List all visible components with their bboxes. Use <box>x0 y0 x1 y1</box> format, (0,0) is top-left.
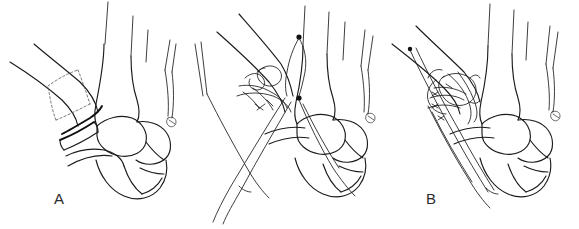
tibia-shaft-a <box>95 44 140 126</box>
fibula-b <box>217 14 293 112</box>
surgical-technique-figure: A <box>0 0 579 229</box>
accessory-ossicle-c <box>551 111 560 121</box>
tightened-fixation-construct-c <box>427 69 480 124</box>
figure-panel-b: B <box>193 0 386 229</box>
tibia-shaft-c <box>480 46 521 124</box>
lateral-tendon-line-c <box>546 64 555 112</box>
accessory-ossicle-b <box>366 113 375 123</box>
metatarsal-shafts-a <box>105 2 176 72</box>
lateral-tendon-line-a <box>165 70 174 118</box>
suture-tails-b <box>207 94 355 224</box>
figure-panel-c: C <box>386 0 579 229</box>
accessory-ossicle-a <box>167 117 176 127</box>
osteotomy-band-a <box>60 122 98 150</box>
metatarsal-shafts-b <box>303 6 373 70</box>
fibula-with-graft-window-a <box>10 44 102 134</box>
graft-harvest-dashed-outline-a <box>48 70 90 120</box>
suture-tails-c <box>410 48 498 208</box>
lateral-tendon-line-b <box>361 66 370 114</box>
tibia-shaft-b <box>295 46 336 124</box>
panel-label-a: A <box>54 190 65 207</box>
suture-loop-construct-b <box>237 38 306 112</box>
exiting-strand-pair-b <box>195 42 207 96</box>
figure-panel-a: A <box>0 0 193 229</box>
wire-twist-ticks-c <box>432 84 452 120</box>
metatarsal-shafts-c <box>488 4 558 68</box>
